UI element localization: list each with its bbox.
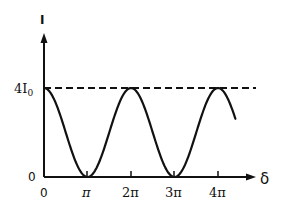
x-tick-label-0: 0 <box>40 186 48 200</box>
x-tick-label-4pi: 4π <box>209 185 226 200</box>
interference-chart: I δ 0 0 π 2π 3π 4π 4I0 <box>0 0 282 209</box>
intensity-curve <box>44 88 235 177</box>
x-tick-label-2pi: 2π <box>122 185 139 200</box>
y-axis-label: I <box>40 13 44 27</box>
y-tick-zero: 0 <box>28 170 36 184</box>
x-axis-label: δ <box>260 170 269 188</box>
x-tick-label-pi: π <box>81 185 91 200</box>
y-axis-arrow-icon <box>41 33 48 43</box>
x-axis-arrow-icon <box>246 174 256 181</box>
x-tick-label-3pi: 3π <box>165 185 182 200</box>
y-tick-max: 4I0 <box>14 81 33 98</box>
